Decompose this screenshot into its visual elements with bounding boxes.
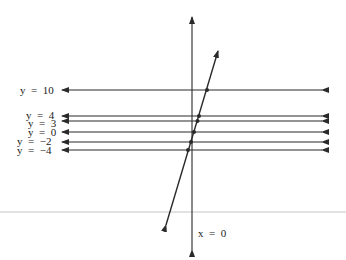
label-y-neg4: y = −4 (17, 144, 52, 156)
intersection-dot (192, 130, 196, 134)
intersection-dot (205, 88, 209, 92)
label-y-10: y = 10 (20, 84, 54, 96)
label-x-0: x = 0 (198, 227, 227, 239)
intersection-dot (197, 114, 201, 118)
intersection-dot (186, 148, 190, 152)
intersection-dot (196, 119, 200, 123)
diagram-canvas: y = 10 y = 4 y = 3 y = 0 y = −2 y = −4 x… (0, 0, 346, 260)
intersection-dot (189, 140, 193, 144)
